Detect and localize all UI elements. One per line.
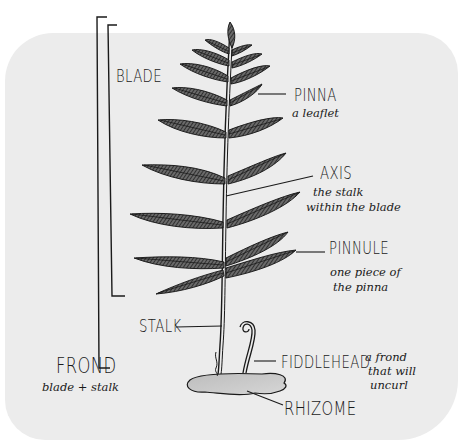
stalk-leader — [176, 326, 222, 327]
fiddlehead-note-line2: that will — [368, 364, 416, 378]
frond-label: FROND — [56, 354, 117, 378]
blade-label: BLADE — [116, 66, 162, 86]
rhizome-shape — [187, 373, 286, 394]
frond-note: blade + stalk — [42, 380, 119, 394]
fiddlehead-label: FIDDLEHEAD — [281, 352, 370, 372]
axis-label: AXIS — [320, 163, 352, 183]
pinna-label: PINNA — [294, 85, 337, 105]
pinnule-label: PINNULE — [329, 238, 389, 258]
stalk-label: STALK — [139, 316, 182, 336]
rhizome-label: RHIZOME — [284, 397, 357, 419]
fiddlehead-note-line1: a frond — [365, 350, 407, 364]
fiddlehead-note-line3: uncurl — [370, 378, 408, 392]
axis-note-line2: within the blade — [306, 200, 401, 214]
pinnule-note-line2: the pinna — [333, 280, 388, 294]
fiddlehead-shape — [240, 322, 255, 373]
axis-note-line1: the stalk — [313, 185, 364, 199]
pinnae — [130, 22, 300, 294]
pinnule-note-line1: one piece of — [330, 265, 401, 279]
pinna-note: a leaflet — [292, 106, 339, 120]
